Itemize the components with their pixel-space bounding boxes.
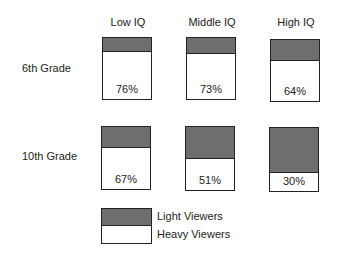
light-viewers-segment	[186, 127, 234, 159]
row-label-10th-grade: 10th Grade	[22, 150, 77, 162]
value-label: 51%	[186, 174, 234, 186]
row-label-6th-grade: 6th Grade	[22, 62, 71, 74]
light-viewers-segment	[270, 128, 318, 173]
light-viewers-segment	[271, 40, 319, 61]
column-label-low-iq: Low IQ	[98, 16, 158, 28]
value-label: 67%	[102, 173, 150, 185]
light-viewers-segment	[187, 38, 235, 54]
bar-6th-middle-iq: 73%	[186, 37, 236, 100]
value-label: 76%	[103, 83, 151, 95]
value-label: 73%	[187, 83, 235, 95]
light-viewers-segment	[102, 127, 150, 148]
column-label-high-iq: High IQ	[266, 16, 326, 28]
column-label-middle-iq: Middle IQ	[182, 16, 242, 28]
legend-swatch-light-viewers	[102, 209, 151, 226]
light-viewers-segment	[103, 38, 151, 52]
legend-label-heavy-viewers: Heavy Viewers	[157, 228, 230, 240]
value-label: 30%	[270, 175, 318, 187]
legend-label-light-viewers: Light Viewers	[157, 210, 223, 222]
bar-10th-low-iq: 67%	[101, 126, 151, 190]
bar-6th-high-iq: 64%	[270, 39, 320, 102]
value-label: 64%	[271, 85, 319, 97]
bar-6th-low-iq: 76%	[102, 37, 152, 100]
bar-10th-middle-iq: 51%	[185, 126, 235, 191]
bar-10th-high-iq: 30%	[269, 127, 319, 192]
legend-swatch	[101, 208, 152, 244]
